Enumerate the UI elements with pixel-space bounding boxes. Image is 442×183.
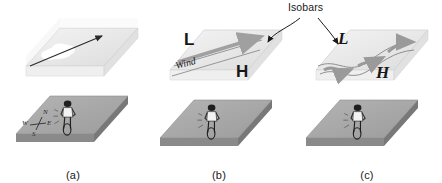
- panel-a: N S E W (a): [0, 0, 148, 183]
- compass-north-label: N: [43, 108, 48, 116]
- upper-slab-c: [316, 30, 428, 80]
- panel-caption-b: (b): [144, 169, 294, 181]
- ground-slab-c: [306, 100, 418, 146]
- ground-slab-b: [160, 100, 272, 146]
- isobars-label: Isobars: [288, 1, 323, 13]
- figure-canvas: N S E W (a): [0, 0, 442, 183]
- panel-c: L H (c): [292, 0, 442, 183]
- panel-caption-c: (c): [292, 169, 442, 181]
- compass-west-label: W: [22, 119, 28, 127]
- upper-slab-b: [170, 30, 282, 80]
- panel-b: L H Wind (b): [144, 0, 294, 183]
- upper-slab-a: [26, 18, 138, 76]
- panel-caption-a: (a): [0, 169, 148, 181]
- compass-east-label: E: [47, 119, 51, 127]
- compass-south-label: S: [32, 130, 36, 138]
